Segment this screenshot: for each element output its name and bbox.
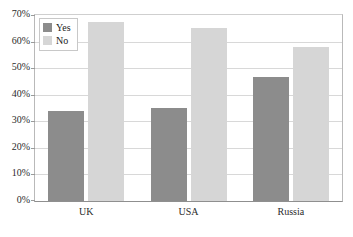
legend-swatch-icon xyxy=(43,23,52,32)
y-axis-tick-mark xyxy=(31,68,35,69)
plot-area: YesNo xyxy=(34,14,343,202)
y-axis-tick-label: 30% xyxy=(0,115,30,125)
bar-uk-no xyxy=(88,22,124,201)
y-axis-tick-label: 50% xyxy=(0,62,30,72)
y-axis-tick-mark xyxy=(31,15,35,16)
bar-uk-yes xyxy=(48,111,84,201)
bar-russia-yes xyxy=(253,77,289,201)
legend-swatch-icon xyxy=(43,36,52,45)
y-axis-tick-label: 60% xyxy=(0,36,30,46)
x-axis-tick-label: USA xyxy=(178,206,198,217)
y-axis: 0%10%20%30%40%50%60%70% xyxy=(0,0,30,237)
bar-group xyxy=(151,15,227,201)
bar-chart: 0%10%20%30%40%50%60%70% YesNo UKUSARussi… xyxy=(0,0,353,237)
y-axis-tick-label: 0% xyxy=(0,195,30,205)
y-axis-tick-mark xyxy=(31,174,35,175)
legend-item-no: No xyxy=(43,34,71,47)
y-axis-tick-label: 40% xyxy=(0,89,30,99)
y-axis-tick-label: 20% xyxy=(0,142,30,152)
y-axis-tick-label: 70% xyxy=(0,9,30,19)
legend-item-yes: Yes xyxy=(43,21,71,34)
bar-group xyxy=(253,15,329,201)
legend: YesNo xyxy=(39,18,78,51)
legend-label: No xyxy=(56,36,68,46)
bar-usa-no xyxy=(191,28,227,201)
legend-label: Yes xyxy=(56,23,71,33)
bar-usa-yes xyxy=(151,108,187,201)
y-axis-tick-label: 10% xyxy=(0,168,30,178)
bar-russia-no xyxy=(293,47,329,201)
x-axis: UKUSARussia xyxy=(35,206,342,226)
y-axis-tick-mark xyxy=(31,200,35,201)
x-axis-tick-label: Russia xyxy=(277,206,304,217)
x-axis-tick-label: UK xyxy=(79,206,93,217)
y-axis-tick-mark xyxy=(31,121,35,122)
y-axis-tick-mark xyxy=(31,42,35,43)
y-axis-tick-mark xyxy=(31,95,35,96)
y-axis-tick-mark xyxy=(31,148,35,149)
